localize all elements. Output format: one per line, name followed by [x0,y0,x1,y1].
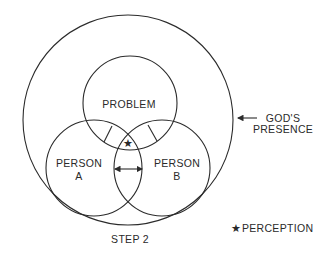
person-a-label-line2: A [75,170,82,182]
gods-presence-circle [23,15,233,225]
problem-label: PROBLEM [102,98,155,110]
legend-label: PERCEPTION [242,222,313,234]
perception-star-icon: ★ [123,137,133,149]
person-a-label-line1: PERSON [56,157,102,169]
person-b-label-line2: B [173,170,180,182]
diagram-caption: STEP 2 [111,233,149,245]
legend-star-icon: ★ [231,222,241,234]
problem-person-b-connector [148,125,157,141]
person-b-label-line1: PERSON [154,157,200,169]
venn-diagram: ★ PROBLEM PERSON A PERSON B GOD'S PRESEN… [0,0,326,253]
gods-presence-label-line2: PRESENCE [253,123,313,135]
problem-person-a-connector [104,126,112,142]
